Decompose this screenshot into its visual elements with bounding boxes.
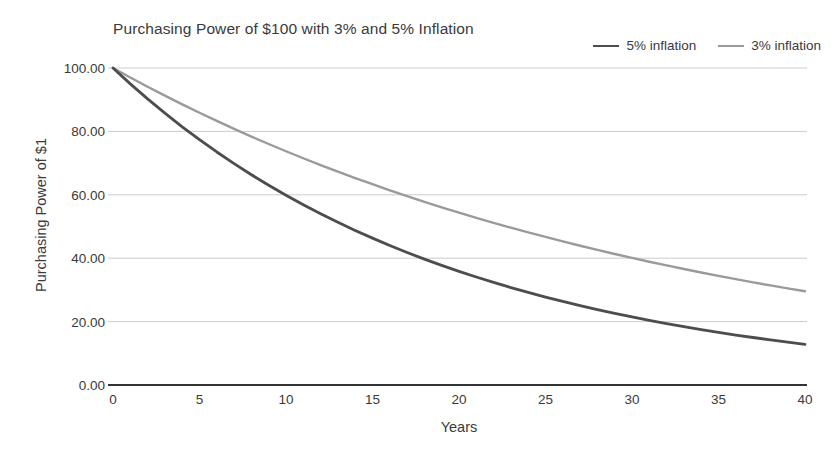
plot-area xyxy=(0,0,835,460)
chart-container: Purchasing Power of $100 with 3% and 5% … xyxy=(0,0,835,460)
gridlines xyxy=(108,68,807,322)
series-line-5pct xyxy=(113,68,805,344)
